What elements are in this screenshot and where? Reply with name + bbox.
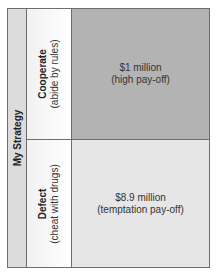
row-label-defect: Defect (cheat with drugs) xyxy=(27,140,72,267)
strategy-description: (abide by rules) xyxy=(49,40,61,109)
strategy-axis: My Strategy xyxy=(8,9,27,267)
strategy-name: Cooperate xyxy=(37,40,49,109)
payoff-cell-cooperate: $1 million (high pay-off) xyxy=(72,9,209,139)
strategy-description: (cheat with drugs) xyxy=(49,164,61,243)
payoff-cell-defect: $8.9 million (temptation pay-off) xyxy=(72,140,209,267)
payoff-amount: $8.9 million xyxy=(97,192,184,204)
payoff-amount: $1 million xyxy=(111,62,170,74)
payoff-type: (temptation pay-off) xyxy=(97,204,184,216)
payoff-type: (high pay-off) xyxy=(111,74,170,86)
row-cooperate: Cooperate (abide by rules) $1 million (h… xyxy=(27,9,209,140)
row-defect: Defect (cheat with drugs) $8.9 million (… xyxy=(27,140,209,267)
strategy-name: Defect xyxy=(37,164,49,243)
payoff-matrix: My Strategy Cooperate (abide by rules) $… xyxy=(7,8,210,268)
strategy-axis-label: My Strategy xyxy=(12,110,23,167)
row-label-cooperate: Cooperate (abide by rules) xyxy=(27,9,72,139)
